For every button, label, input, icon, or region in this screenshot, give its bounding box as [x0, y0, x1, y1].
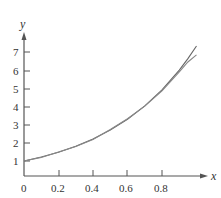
y-tick-labels: 1 2 3 4 5 6 7 [13, 46, 19, 167]
chart: y x 1 2 3 4 5 6 7 0 0.2 0.4 0.6 0.8 [0, 0, 221, 198]
y-tick-label: 4 [13, 101, 19, 113]
x-axis-label: x [210, 169, 217, 183]
y-tick-label: 2 [13, 137, 19, 149]
y-tick-label: 5 [13, 83, 19, 95]
x-tick-labels: 0 0.2 0.4 0.6 0.8 [21, 182, 168, 194]
curve-1-line [24, 46, 197, 161]
y-axis-arrow-icon [22, 32, 27, 40]
x-tick-label: 0.6 [119, 182, 133, 194]
x-axis-arrow-icon [200, 174, 208, 179]
x-tick-label: 0.2 [51, 182, 65, 194]
x-tick-label: 0.4 [85, 182, 99, 194]
x-tick-label: 0 [21, 182, 27, 194]
x-ticks [59, 170, 162, 176]
y-axis-label: y [19, 17, 26, 31]
curve-2-line [24, 55, 197, 161]
y-tick-label: 6 [13, 65, 19, 77]
y-ticks [24, 52, 30, 161]
y-tick-label: 3 [13, 119, 19, 131]
x-tick-label: 0.8 [154, 182, 168, 194]
y-tick-label: 1 [13, 155, 19, 167]
y-tick-label: 7 [13, 46, 19, 58]
